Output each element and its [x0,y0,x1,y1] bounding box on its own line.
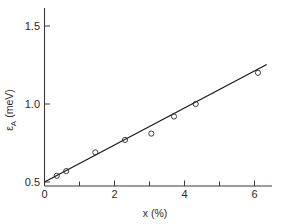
x-tick-label-4: 4 [181,188,187,200]
x-tick-label-2: 2 [111,188,117,200]
y-tick-label-0.5: 0.5 [25,176,40,188]
x-axis-title: x (%) [143,207,168,219]
y-tick-label-1.5: 1.5 [25,20,40,32]
y-axis-title-unit: (meV) [3,89,15,118]
x-tick-label-0: 0 [41,188,47,200]
data-point [149,131,154,136]
axes-group [45,8,273,186]
data-point [255,70,260,75]
data-points-group [54,70,260,178]
data-point [93,150,98,155]
y-axis-title: εA(meV) [3,89,18,131]
svg-text:εA(meV): εA(meV) [3,89,18,131]
scatter-plot: 1.5 1.0 0.5 0 2 4 6 x (%) εA(meV) [0,0,283,224]
x-tick-marks [45,181,255,187]
y-axis-title-subscript: A [9,120,18,126]
data-point [171,114,176,119]
x-tick-label-6: 6 [251,188,257,200]
linear-fit-line [45,65,267,183]
y-tick-label-1.0: 1.0 [25,98,40,110]
chart-figure: 1.5 1.0 0.5 0 2 4 6 x (%) εA(meV) [0,0,283,224]
x-tick-labels: 0 2 4 6 [41,188,257,200]
y-tick-marks [45,26,51,182]
y-tick-labels: 1.5 1.0 0.5 [25,20,40,188]
